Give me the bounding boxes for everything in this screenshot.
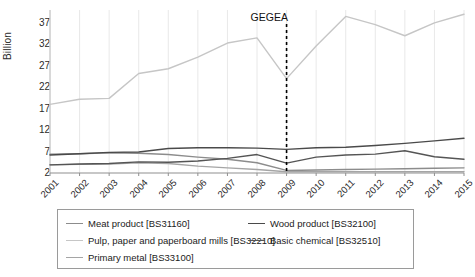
x-tick-2004: 2004 xyxy=(125,177,150,202)
legend-item[interactable]: Meat product [BS31160] xyxy=(66,215,275,232)
plot-area: Billion 27121722273237 20012002200320042… xyxy=(0,0,471,200)
x-tick-2008: 2008 xyxy=(243,177,268,202)
x-tick-2007: 2007 xyxy=(213,177,238,202)
x-tick-2006: 2006 xyxy=(184,177,209,202)
legend-item-label: Basic chemical [BS32510] xyxy=(270,235,380,246)
legend-swatch-icon xyxy=(248,223,265,224)
x-tick-2012: 2012 xyxy=(361,177,386,202)
x-axis-tick-labels: 2001200220032004200520062007200820092010… xyxy=(0,0,471,200)
legend-item[interactable]: Primary metal [BS33100] xyxy=(66,249,275,266)
legend-item-label: Primary metal [BS33100] xyxy=(88,252,194,263)
legend-item[interactable]: Wood product [BS32100] xyxy=(248,215,380,232)
x-tick-2013: 2013 xyxy=(391,177,416,202)
x-tick-2001: 2001 xyxy=(36,177,61,202)
x-tick-2015: 2015 xyxy=(450,177,475,202)
legend-swatch-icon xyxy=(248,240,265,241)
legend-swatch-icon xyxy=(66,257,83,258)
chart-legend: Meat product [BS31160]Pulp, paper and pa… xyxy=(57,209,414,269)
legend-item[interactable]: Pulp, paper and paperboard mills [BS3221… xyxy=(66,232,275,249)
gegea-annotation-label: GEGEA xyxy=(251,11,288,23)
x-tick-2005: 2005 xyxy=(154,177,179,202)
legend-item-label: Meat product [BS31160] xyxy=(88,218,190,229)
legend-column-left: Meat product [BS31160]Pulp, paper and pa… xyxy=(66,215,275,266)
x-tick-2010: 2010 xyxy=(302,177,327,202)
legend-item-label: Pulp, paper and paperboard mills [BS3221… xyxy=(88,235,275,246)
legend-item[interactable]: Basic chemical [BS32510] xyxy=(248,232,380,249)
legend-item-label: Wood product [BS32100] xyxy=(270,218,376,229)
x-tick-2011: 2011 xyxy=(332,177,357,202)
legend-swatch-icon xyxy=(66,223,83,224)
legend-column-right: Wood product [BS32100]Basic chemical [BS… xyxy=(248,215,380,249)
x-tick-2002: 2002 xyxy=(66,177,91,202)
x-tick-2003: 2003 xyxy=(95,177,120,202)
legend-swatch-icon xyxy=(66,240,83,241)
x-tick-2009: 2009 xyxy=(273,177,298,202)
x-tick-2014: 2014 xyxy=(420,177,445,202)
